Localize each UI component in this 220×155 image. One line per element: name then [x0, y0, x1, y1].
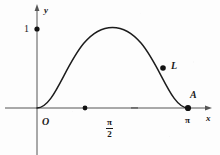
point-A-label: A — [190, 90, 197, 100]
x-tick-label-pi-over-2: π 2 — [106, 118, 113, 140]
x-axis-label: x — [206, 114, 211, 123]
y-axis-arrowhead — [35, 4, 40, 11]
y-tick-label-1: 1 — [24, 24, 29, 34]
y-axis-label: y — [44, 6, 48, 15]
sine-curve-figure: y x O 1 π 2 π L A — [0, 0, 220, 155]
point-A-dot — [185, 105, 191, 111]
point-L-dot — [160, 65, 166, 71]
x-axis-arrowhead — [205, 106, 212, 111]
y-tick-1-dot — [34, 26, 39, 31]
pi-over-2-numerator: π — [106, 118, 113, 127]
point-L-label: L — [171, 61, 177, 71]
x-axis-mark-1-dot — [83, 106, 88, 111]
x-axis-mark-2-dash — [131, 107, 138, 109]
pi-over-2-denominator: 2 — [106, 130, 113, 139]
origin-label: O — [42, 117, 49, 127]
x-tick-label-pi: π — [185, 116, 190, 125]
